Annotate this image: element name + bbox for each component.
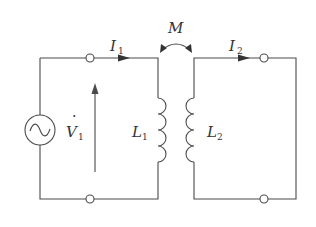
label-v1-dot: · (72, 108, 76, 124)
terminal-secondary-top (260, 54, 268, 62)
primary-left-wire-lower (40, 145, 158, 199)
mutual-coupling-arrow (160, 44, 192, 53)
label-l2-sub: 2 (217, 132, 223, 142)
ac-source-icon (25, 115, 55, 145)
inductor-l1-icon (158, 98, 166, 162)
label-i1-sub: 1 (118, 46, 124, 56)
label-i2-sub: 2 (237, 46, 243, 56)
label-l1-sub: 1 (142, 132, 148, 142)
label-m: M (167, 19, 184, 37)
terminal-secondary-bottom (260, 195, 268, 203)
terminal-primary-bottom (86, 195, 94, 203)
primary-top-wire (40, 58, 158, 98)
label-l2: L (206, 123, 217, 141)
voltage-arrow (92, 83, 99, 172)
circuit-diagram: I 1 M I 2 V · 1 L 1 L 2 (0, 0, 316, 227)
label-i2: I (228, 37, 236, 55)
label-l1: L (131, 123, 142, 141)
label-i1: I (109, 37, 117, 55)
terminal-primary-top (86, 54, 94, 62)
label-v1-sub: 1 (78, 132, 84, 142)
inductor-l2-icon (186, 98, 194, 162)
